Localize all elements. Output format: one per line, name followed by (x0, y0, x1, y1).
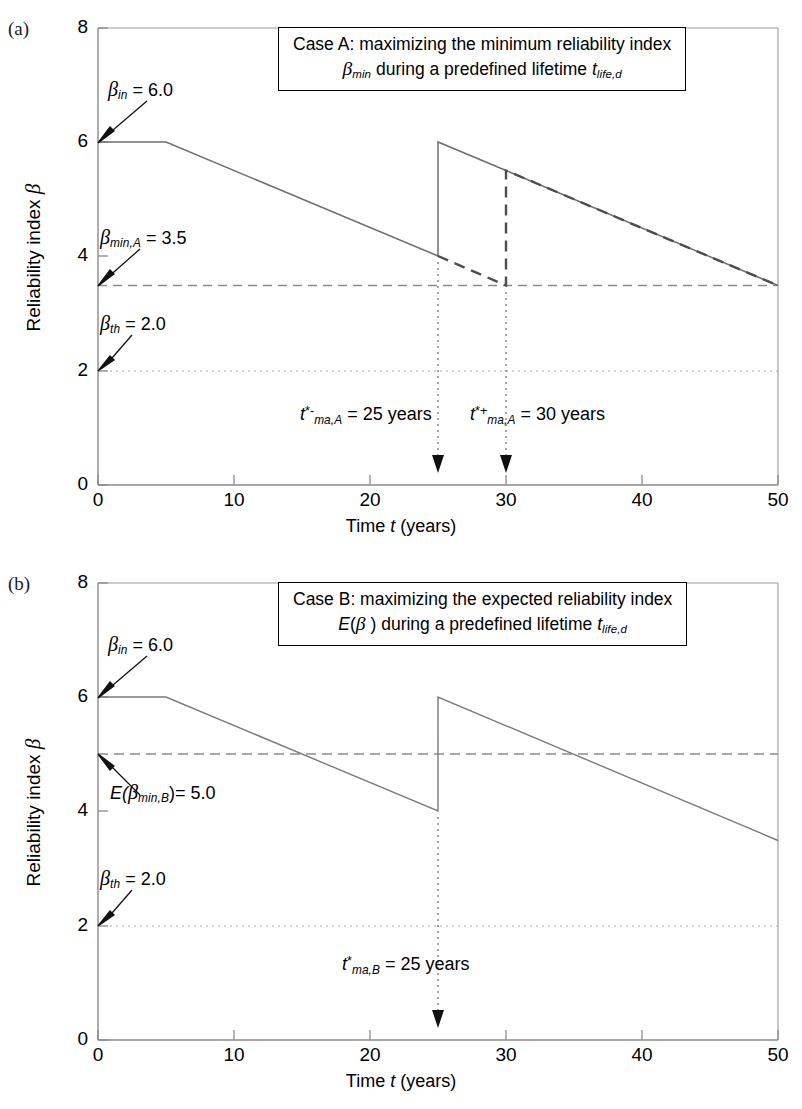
panel-a-ytick-6: 6 (62, 130, 88, 152)
panel-a-title-box: Case A: maximizing the minimum reliabili… (278, 27, 686, 91)
panel-a-arrow-beta-th (98, 335, 132, 371)
panel-b-annot-beta-th: βth = 2.0 (100, 868, 166, 891)
panel-a-xtick-20: 20 (350, 489, 390, 511)
panel-b-annot-beta-in: βin = 6.0 (108, 634, 173, 657)
panel-b-xtick-40: 40 (622, 1044, 662, 1066)
panel-b-xtick-30: 30 (486, 1044, 526, 1066)
panel-b: (b) (0, 555, 802, 1109)
panel-a-ytick-2: 2 (62, 359, 88, 381)
panel-a-xtick-0: 0 (78, 489, 118, 511)
panel-b-xtick-10: 10 (214, 1044, 254, 1066)
panel-a-annot-t-minus: t*-ma,A = 25 years (300, 405, 432, 426)
panel-b-y-axis-title: Reliability index β (21, 683, 46, 943)
panel-b-ytick-4: 4 (62, 799, 88, 821)
panel-a-marker-t30 (500, 292, 512, 473)
panel-a-xtick-50: 50 (758, 489, 798, 511)
panel-a: (a) (0, 0, 802, 554)
panel-b-x-ticks (98, 1030, 778, 1040)
panel-b-xtick-20: 20 (350, 1044, 390, 1066)
panel-a-title-line2: βmin during a predefined lifetime tlife,… (293, 56, 671, 82)
panel-a-ytick-8: 8 (62, 16, 88, 38)
panel-a-xtick-30: 30 (486, 489, 526, 511)
panel-a-arrow-beta-in (98, 101, 147, 143)
panel-a-x-axis-title: Time t (years) (0, 516, 802, 537)
panel-b-ytick-2: 2 (62, 914, 88, 936)
panel-a-curve-dashed (438, 171, 778, 286)
panel-a-arrow-beta-min (98, 249, 140, 286)
panel-b-arrow-beta-in (98, 656, 147, 698)
panel-b-title-line2: E(β ) during a predefined lifetime tlife… (293, 611, 672, 637)
panel-b-annot-t-star: t*ma,B = 25 years (342, 955, 470, 976)
panel-a-annot-beta-in: βin = 6.0 (108, 79, 173, 102)
panel-b-xtick-0: 0 (78, 1044, 118, 1066)
panel-b-y-ticks (98, 583, 108, 1040)
panel-a-y-ticks (98, 28, 108, 485)
panel-a-xtick-10: 10 (214, 489, 254, 511)
panel-b-xtick-50: 50 (758, 1044, 798, 1066)
panel-b-x-axis-title: Time t (years) (0, 1071, 802, 1092)
figure-reliability-index-maintenance: (a) (0, 0, 802, 1109)
panel-b-title-box: Case B: maximizing the expected reliabil… (278, 582, 687, 646)
panel-b-marker-t25 (432, 817, 444, 1028)
panel-a-marker-t25 (432, 262, 444, 473)
panel-a-annot-beta-min: βmin,A = 3.5 (100, 227, 186, 250)
panel-a-x-ticks (98, 475, 778, 485)
panel-b-ytick-8: 8 (62, 571, 88, 593)
panel-b-ytick-6: 6 (62, 685, 88, 707)
panel-b-annot-expected-beta: E(βmin,B)= 5.0 (110, 782, 215, 805)
panel-a-annot-beta-th: βth = 2.0 (100, 313, 166, 336)
panel-a-title-line1: Case A: maximizing the minimum reliabili… (293, 33, 671, 56)
panel-b-title-line1: Case B: maximizing the expected reliabil… (293, 588, 672, 611)
panel-a-xtick-40: 40 (622, 489, 662, 511)
panel-a-ytick-4: 4 (62, 244, 88, 266)
panel-b-arrow-beta-th (98, 890, 132, 926)
panel-a-y-axis-title: Reliability index β (21, 128, 46, 388)
panel-a-annot-t-plus: t*+ma,A = 30 years (470, 405, 605, 426)
